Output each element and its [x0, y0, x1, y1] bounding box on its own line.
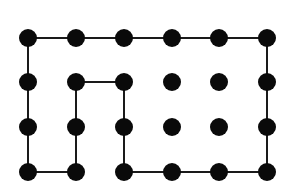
grid-dot	[210, 118, 228, 136]
grid-dot	[67, 118, 85, 136]
grid-dot	[115, 29, 133, 47]
grid-dot	[163, 29, 181, 47]
dot-grid-diagram	[0, 0, 294, 196]
grid-dot	[19, 118, 37, 136]
grid-dot	[19, 163, 37, 181]
grid-dot	[19, 29, 37, 47]
grid-dot	[115, 118, 133, 136]
grid-dot	[210, 73, 228, 91]
grid-dot	[258, 73, 276, 91]
grid-dot	[163, 118, 181, 136]
grid-dot	[67, 163, 85, 181]
grid-dot	[163, 73, 181, 91]
grid-dot	[67, 73, 85, 91]
grid-dot	[210, 29, 228, 47]
grid-dot	[115, 73, 133, 91]
grid-dot	[210, 163, 228, 181]
grid-dot	[258, 163, 276, 181]
grid-dots	[19, 29, 276, 181]
path-lines	[28, 38, 267, 172]
grid-dot	[258, 29, 276, 47]
grid-dot	[19, 73, 37, 91]
grid-dot	[115, 163, 133, 181]
grid-dot	[163, 163, 181, 181]
grid-dot	[67, 29, 85, 47]
grid-dot	[258, 118, 276, 136]
